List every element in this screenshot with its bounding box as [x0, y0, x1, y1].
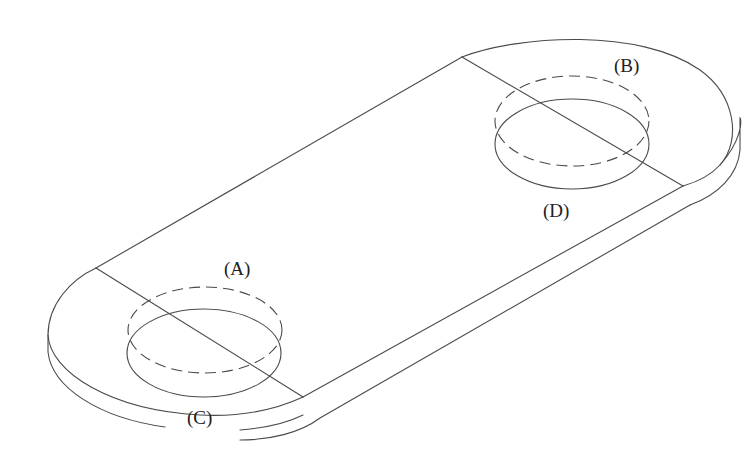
- label-c: (C): [187, 407, 212, 429]
- plate-left-end-bottom-2: [240, 415, 303, 430]
- plate-top-face: [48, 39, 733, 415]
- label-b: (B): [614, 55, 639, 77]
- right-hole: [495, 76, 649, 189]
- left-hole: [127, 287, 282, 397]
- plate-front-edge: [303, 186, 683, 397]
- left-hole-hidden-edge: [128, 287, 282, 373]
- left-hole-top-edge: [127, 309, 281, 397]
- plate-drawing: (A) (B) (C) (D): [0, 0, 750, 469]
- right-hole-top-edge: [495, 99, 649, 189]
- plate-front-bottom-edge: [240, 205, 690, 440]
- plate-back-edge: [96, 57, 462, 268]
- plate-right-end-bottom: [690, 118, 741, 205]
- plate-left-end-bottom: [48, 335, 165, 427]
- plate-thickness: [48, 118, 741, 440]
- label-a: (A): [224, 258, 250, 280]
- label-d: (D): [543, 200, 569, 222]
